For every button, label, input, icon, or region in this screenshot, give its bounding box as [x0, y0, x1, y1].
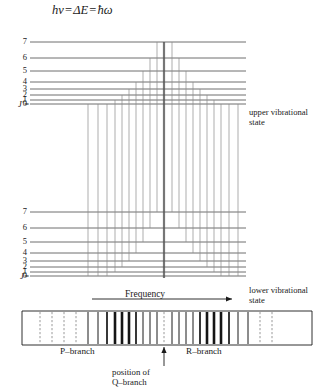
upper-state-levels: [30, 42, 246, 104]
energy-level-number: 5: [18, 66, 27, 75]
q-branch-marker-arrow: [161, 347, 166, 366]
lower-quantum-number-label: J=: [20, 272, 30, 281]
frequency-arrowhead: [226, 296, 232, 301]
figure-root: hν=ΔE=ħω 76543210 76543210 J′= J= upper …: [0, 0, 335, 391]
q-branch-caption-line1: position of: [112, 367, 150, 377]
q-branch-caption-line2: Q–branch: [112, 377, 150, 387]
energy-level-number: 6: [18, 223, 27, 232]
transition-lines: [88, 42, 238, 278]
lower-state-caption-line2: state: [249, 296, 308, 306]
lower-state-caption: lower vibrational state: [249, 286, 308, 305]
q-arrowhead: [161, 347, 166, 353]
energy-level-diagram: [0, 0, 335, 391]
energy-level-number: 7: [18, 37, 27, 46]
frequency-axis-label: Frequency: [125, 289, 165, 299]
upper-quantum-number-label: J′=: [18, 100, 29, 109]
spectrum-lines: [40, 312, 272, 344]
upper-state-caption-line2: state: [249, 118, 308, 128]
energy-level-number: 6: [18, 53, 27, 62]
q-branch-caption: position of Q–branch: [112, 367, 150, 387]
upper-state-caption: upper vibrational state: [249, 108, 308, 127]
energy-level-number: 5: [18, 237, 27, 246]
p-branch-label: P–branch: [60, 346, 95, 356]
energy-level-number: 7: [18, 207, 27, 216]
lower-state-levels: [30, 212, 246, 276]
r-branch-label: R–branch: [186, 346, 222, 356]
spectrum-box: [22, 311, 312, 345]
